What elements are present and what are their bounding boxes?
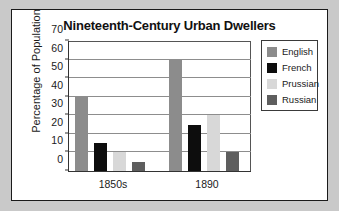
x-tick-label: 1850s: [75, 178, 151, 190]
legend-item: Russian: [267, 94, 313, 105]
bar: [169, 60, 182, 171]
bar: [226, 152, 239, 171]
bar: [94, 143, 107, 171]
y-tick-mark: [65, 77, 69, 78]
y-tick-label: 10: [51, 134, 63, 146]
y-axis-title: Percentage of Population: [30, 6, 42, 136]
y-tick-mark: [65, 114, 69, 115]
bar-group: [75, 41, 151, 171]
plot-area: 706050403020100 1850s1890: [68, 41, 251, 172]
legend-swatch: [267, 47, 277, 57]
legend-item: French: [267, 62, 313, 73]
y-tick-label: 20: [51, 116, 63, 128]
legend-swatch: [267, 95, 277, 105]
y-tick-mark: [65, 95, 69, 96]
bar: [113, 152, 126, 171]
bar-group: [169, 41, 245, 171]
legend-label: Prussian: [282, 78, 319, 89]
y-tick-label: 70: [51, 23, 63, 35]
y-tick-mark: [65, 40, 69, 41]
legend-label: English: [282, 46, 313, 57]
bar: [75, 97, 88, 171]
y-tick-mark: [65, 58, 69, 59]
y-tick-label: 30: [51, 97, 63, 109]
legend-swatch: [267, 63, 277, 73]
y-tick-mark: [65, 170, 69, 171]
y-tick-label: 40: [51, 79, 63, 91]
y-tick-mark: [65, 151, 69, 152]
bar: [207, 115, 220, 171]
y-tick-label: 50: [51, 60, 63, 72]
chart-figure: Nineteenth-Century Urban Dwellers Percen…: [11, 9, 328, 201]
bar: [188, 125, 201, 171]
legend-item: Prussian: [267, 78, 313, 89]
legend-label: Russian: [282, 94, 316, 105]
x-tick-label: 1890: [169, 178, 245, 190]
y-tick-label: 60: [51, 42, 63, 54]
legend-label: French: [282, 62, 312, 73]
legend-swatch: [267, 79, 277, 89]
legend-item: English: [267, 46, 313, 57]
bar: [132, 162, 145, 171]
y-tick-mark: [65, 132, 69, 133]
chart-legend: EnglishFrenchPrussianRussian: [261, 40, 318, 111]
y-tick-label: 0: [57, 153, 63, 165]
